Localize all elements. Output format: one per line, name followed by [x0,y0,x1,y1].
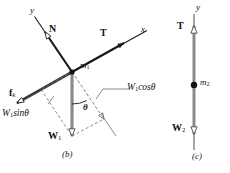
weight-label-w2: W2 [172,123,185,134]
tension-label-c: T [177,21,184,31]
friction-label-subscript: k [12,91,15,98]
panel-c-group [191,14,197,150]
parallelogram-edge-right [72,119,104,136]
weight-label-w1: W1 [48,131,61,142]
mass-point-m2 [191,82,197,88]
panel-b-y-axis-label: y [30,6,34,15]
wsin-leader-line [48,96,54,104]
weight-parallel-component-label: W1sinθ [2,109,29,119]
wcos-leader-line [96,89,129,99]
mass-label-m1: m1 [80,61,90,70]
weight-label-w2-subscript: 2 [182,126,185,133]
tension-label-b: T [100,28,107,38]
panel-b-x-axis-label: x [141,25,145,34]
component-perpendicular-construction [72,72,104,119]
weight-label-w1-symbol: W [48,130,58,141]
wsin-symbol: W [2,108,10,118]
wcos-trig: cosθ [138,82,155,92]
weight-perpendicular-component-label: W1cosθ [127,83,156,93]
theta-angle-label: θ [83,103,88,112]
weight-label-w1-subscript: 1 [58,134,61,141]
figure-canvas [0,0,230,173]
weight-label-w2-symbol: W [172,122,182,133]
panel-b-group [17,17,147,137]
wcos-symbol: W [127,82,135,92]
mass-label-m2-subscript: 2 [207,81,210,87]
friction-label: fk [9,88,15,99]
mass-point-m1 [69,69,74,74]
panel-c-y-axis-label: y [196,3,200,12]
panel-b-caption: (b) [62,150,73,159]
normal-force-vector [45,32,72,72]
physics-free-body-figure: y x N T fk m1 θ W1sinθ W1cosθ W1 (b) y T… [0,0,230,173]
normal-force-label: N [49,24,56,34]
mass-label-m1-subscript: 1 [87,64,90,70]
wsin-trig: sinθ [13,108,29,118]
panel-c-caption: (c) [192,152,202,161]
incline-normal-extension [101,114,116,136]
mass-label-m2: m2 [200,78,210,87]
